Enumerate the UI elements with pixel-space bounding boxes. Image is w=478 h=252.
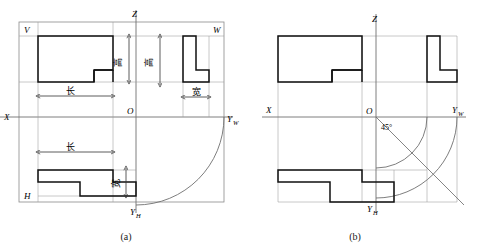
label-dim-length-top: 长 (66, 141, 75, 152)
label-dim-width-top: 宽 (110, 179, 121, 188)
svg-text:H: H (372, 209, 378, 216)
label-dim-width-side: 宽 (192, 86, 201, 97)
svg-text:W: W (233, 119, 239, 126)
label-angle-45: 45° (381, 123, 392, 132)
label-axis-x-b: X (265, 105, 272, 115)
svg-text:W: W (458, 110, 464, 117)
svg-text:H: H (135, 212, 141, 219)
label-dim-height-side: 高 (143, 58, 154, 67)
caption-panel-b: (b) (325, 231, 385, 242)
caption-panel-a: (a) (96, 231, 156, 242)
label-origin-b: O (366, 106, 373, 116)
label-axis-x-a: X (3, 112, 10, 122)
label-dim-length-front: 长 (66, 85, 75, 96)
label-dim-height-front: 高 (112, 58, 123, 67)
label-origin-a: O (127, 106, 134, 116)
label-quadrant-h: H (23, 191, 31, 201)
figure-three-view-projection: V W H Z X O Y W Y H 长 长 高 高 宽 宽 (0, 0, 478, 252)
